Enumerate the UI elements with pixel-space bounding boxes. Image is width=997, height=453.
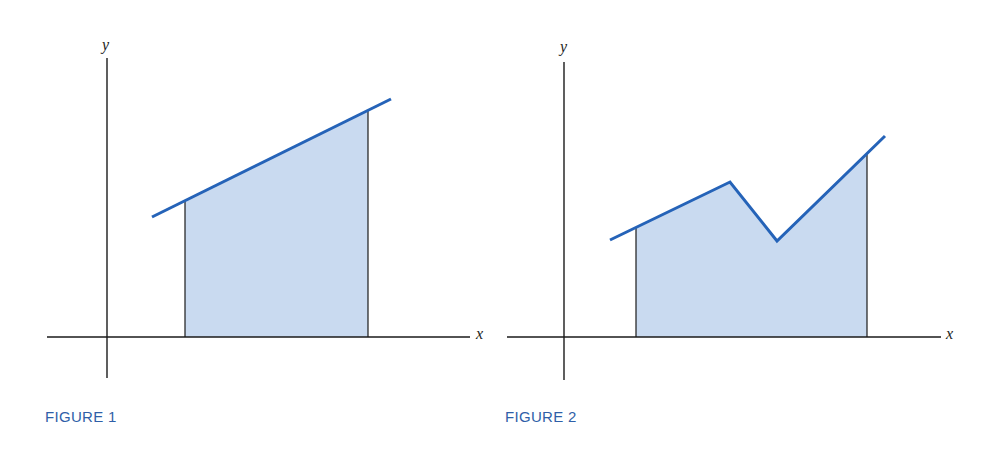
figure-1-y-label: y bbox=[102, 36, 109, 54]
figure-2-y-label: y bbox=[560, 38, 567, 56]
figure-2 bbox=[507, 62, 941, 380]
figure-1-shaded-area bbox=[185, 110, 368, 337]
figure-2-shaded-area bbox=[636, 154, 867, 337]
figure-1-caption: FIGURE 1 bbox=[45, 408, 117, 425]
figure-2-x-label: x bbox=[946, 325, 953, 343]
figure-2-caption: FIGURE 2 bbox=[505, 408, 577, 425]
figure-1-x-label: x bbox=[476, 325, 483, 343]
figures-canvas bbox=[0, 0, 997, 453]
figure-1 bbox=[47, 58, 470, 378]
